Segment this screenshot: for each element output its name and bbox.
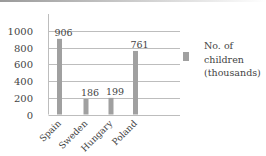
bars bbox=[57, 39, 138, 115]
category-label: Spain bbox=[37, 118, 63, 144]
legend-line: (thousands) bbox=[204, 66, 261, 80]
value-label: 906 bbox=[54, 27, 72, 38]
legend-swatch bbox=[183, 52, 189, 61]
legend-line: No. of bbox=[204, 39, 261, 53]
y-tick-label: 600 bbox=[14, 59, 33, 70]
value-label: 186 bbox=[81, 87, 99, 98]
y-tick-label: 200 bbox=[14, 93, 33, 104]
legend-label: No. of children (thousands) bbox=[204, 39, 261, 80]
legend-line: children bbox=[204, 53, 261, 67]
value-label: 199 bbox=[106, 86, 124, 97]
bar bbox=[57, 39, 62, 115]
y-tick-label: 800 bbox=[14, 43, 33, 54]
bar bbox=[109, 98, 114, 115]
gridlines bbox=[49, 32, 181, 116]
y-tick-label: 400 bbox=[14, 76, 33, 87]
value-label: 761 bbox=[130, 39, 148, 50]
y-tick-label: 1000 bbox=[8, 26, 33, 37]
x-axis-category-labels: SpainSwedenHungaryPoland bbox=[37, 118, 139, 154]
category-label: Poland bbox=[110, 118, 139, 147]
y-tick-label: 0 bbox=[27, 110, 33, 121]
bar bbox=[133, 51, 138, 115]
y-axis-tick-labels: 02004006008001000 bbox=[8, 26, 33, 121]
bar bbox=[84, 99, 89, 115]
